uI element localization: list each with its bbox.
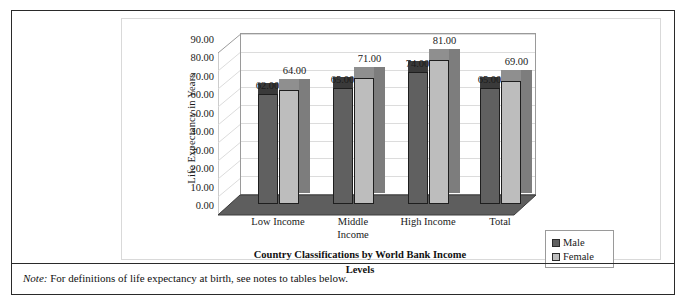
bar-value-label: 71.00 <box>358 53 382 64</box>
bar-value-label: 74.00 <box>406 58 430 69</box>
bar-top-face <box>429 49 449 60</box>
bars-layer: 62.0064.0065.0071.0074.0081.0065.0069.00 <box>218 33 536 217</box>
y-axis-tick: 30.00 <box>166 144 214 155</box>
y-axis-tick: 80.00 <box>166 52 214 63</box>
bar-female-low-income <box>279 90 299 204</box>
x-axis-category-labels: Low IncomeMiddleIncomeHigh IncomeTotal <box>218 215 548 251</box>
bar-male-high-income <box>408 72 428 204</box>
bar-top-face <box>354 67 374 78</box>
bar-front-face <box>258 94 278 204</box>
legend-item-male: Male <box>552 237 608 248</box>
x-axis-category-middle-income: MiddleIncome <box>313 215 393 241</box>
category-label-line1: High Income <box>388 215 468 228</box>
category-label-line1: Middle <box>313 215 393 228</box>
bar-front-face <box>279 90 299 204</box>
bar-front-face <box>429 60 449 204</box>
y-axis-tick: 70.00 <box>166 70 214 81</box>
y-axis-tick: 60.00 <box>166 89 214 100</box>
bar-value-label: 65.00 <box>331 74 355 85</box>
bar-front-face <box>501 81 521 204</box>
bar-top-face <box>501 70 521 81</box>
y-axis-tick: 10.00 <box>166 181 214 192</box>
note-text: For definitions of life expectancy at bi… <box>47 272 347 284</box>
bar-side-face <box>374 67 385 193</box>
category-label-line1: Low Income <box>238 215 318 228</box>
bar-side-face <box>449 49 460 193</box>
x-axis-category-total: Total <box>460 215 540 228</box>
note-label: Note: <box>23 272 47 284</box>
bar-female-total <box>501 81 521 204</box>
bar-male-total <box>480 88 500 204</box>
bar-female-high-income <box>429 60 449 204</box>
legend-item-female: Female <box>552 251 608 262</box>
y-axis-tick-labels: 0.0010.0020.0030.0040.0050.0060.0070.008… <box>166 39 214 205</box>
legend-label: Female <box>563 251 594 262</box>
bar-side-face <box>299 79 310 193</box>
chart-region: Life Expectancy in Years 0.0010.0020.003… <box>121 18 661 260</box>
bar-front-face <box>408 72 428 204</box>
y-axis-tick: 40.00 <box>166 126 214 137</box>
bar-front-face <box>480 88 500 204</box>
y-axis-tick: 20.00 <box>166 163 214 174</box>
y-axis-tick: 90.00 <box>166 34 214 45</box>
category-label-line1: Total <box>460 215 540 228</box>
bar-female-middle-income <box>354 78 374 204</box>
category-label-line2: Income <box>313 228 393 241</box>
note-divider <box>12 263 674 264</box>
plot-area: 62.0064.0065.0071.0074.0081.0065.0069.00 <box>218 33 536 213</box>
bar-top-face <box>279 79 299 90</box>
y-axis-tick: 0.00 <box>166 200 214 211</box>
x-axis-category-low-income: Low Income <box>238 215 318 228</box>
bar-value-label: 62.00 <box>256 80 280 91</box>
bar-male-middle-income <box>333 88 353 204</box>
legend-label: Male <box>563 237 585 248</box>
legend-swatch-female <box>552 253 560 261</box>
bar-front-face <box>333 88 353 204</box>
bar-male-low-income <box>258 94 278 204</box>
bar-value-label: 65.00 <box>478 74 502 85</box>
figure-frame: Life Expectancy in Years 0.0010.0020.003… <box>11 10 675 295</box>
x-axis-category-high-income: High Income <box>388 215 468 228</box>
bar-value-label: 69.00 <box>505 56 529 67</box>
x-axis-title-line1: Country Classifications by World Bank In… <box>180 247 540 262</box>
bar-value-label: 64.00 <box>283 65 307 76</box>
bar-value-label: 81.00 <box>433 35 457 46</box>
y-axis-tick: 50.00 <box>166 107 214 118</box>
figure-note: Note: For definitions of life expectancy… <box>23 272 348 284</box>
bar-front-face <box>354 78 374 204</box>
legend-swatch-male <box>552 239 560 247</box>
bar-side-face <box>521 70 532 193</box>
